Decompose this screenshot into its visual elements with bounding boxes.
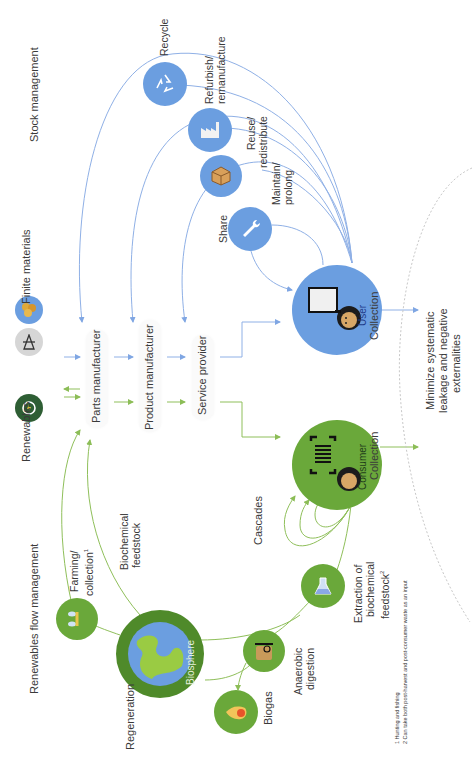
maintain-label-line1: Maintain/	[270, 162, 282, 205]
stock-management-label: Stock management	[28, 47, 40, 142]
user-label: User	[357, 305, 368, 326]
cascades-label: Cascades	[252, 496, 264, 545]
consumer-label: Consumer	[357, 444, 368, 490]
footnote-2: 2 Can take both post-harvest and post-co…	[402, 580, 409, 744]
renewables-flow-management-label: Renewables flow management	[28, 544, 40, 694]
finite-materials-label: Finite materials	[20, 229, 32, 304]
factory-icon	[188, 108, 232, 152]
biological-collection-label: Collection	[368, 432, 380, 480]
biochemical-feedstock-line2: feedstock	[130, 523, 142, 568]
reuse-label-line1: Reuse/	[245, 117, 257, 150]
regeneration-label: Regeneration	[124, 684, 136, 750]
wrench-icon	[228, 207, 272, 251]
anaerobic-label-line1: Anaerobic	[292, 648, 304, 695]
biosphere-label: Biosphere	[185, 640, 196, 685]
technical-collection-label: Collection	[368, 292, 380, 340]
extraction-label-line3: feedstock2	[376, 571, 391, 619]
wheat-fish-icon	[56, 598, 98, 640]
biochemical-feedstock-line1: Biochemical	[118, 513, 130, 570]
footnote-1: 1 Hunting and fishing	[394, 692, 401, 744]
globe-icon	[127, 621, 193, 687]
reuse-label-line2: redistribute	[257, 116, 269, 168]
leakage-line2: leakage and negative	[437, 308, 449, 413]
refurbish-label-line1: Refurbish/	[203, 56, 215, 104]
anaerobic-label-line2: digestion	[304, 648, 316, 690]
oil-rig-icon	[15, 328, 43, 356]
share-label: Share	[217, 215, 229, 243]
parts-manufacturer-label: Parts manufacturer	[90, 329, 102, 423]
digester-icon	[243, 630, 285, 672]
biogas-label: Biogas	[262, 691, 274, 725]
farming-label-line2: collection1	[80, 549, 95, 596]
renewables-label: Renewables	[20, 401, 32, 462]
service-provider-label: Service provider	[196, 336, 208, 415]
flame-icon	[214, 690, 258, 734]
recycle-label: Recycle	[158, 19, 170, 56]
maintain-label-line2: prolong	[282, 170, 294, 205]
recycle-icon	[143, 62, 187, 106]
box-icon	[200, 155, 242, 197]
extraction-label-line2: biochemical	[364, 562, 376, 617]
leakage-line1: Minimize systematic	[424, 312, 436, 410]
refurbish-label-line2: remanufacture	[215, 36, 227, 104]
product-manufacturer-label: Product manufacturer	[143, 324, 155, 430]
leakage-line3: externalities	[450, 334, 462, 393]
flask-icon	[301, 564, 345, 608]
farming-label-line1: Farming/	[68, 551, 80, 592]
extraction-label-line1: Extraction of	[352, 565, 364, 623]
